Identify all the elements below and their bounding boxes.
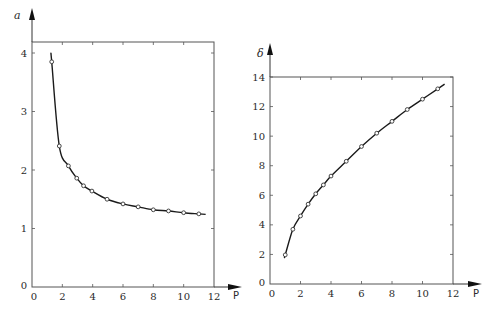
x-tick-label: 4 [328, 288, 334, 299]
data-point [360, 145, 364, 149]
data-point [344, 159, 348, 163]
data-point [321, 183, 325, 187]
series-curve [284, 84, 444, 257]
data-point [136, 205, 140, 209]
y-tick-label: 8 [259, 160, 265, 171]
y-axis-label: a [14, 9, 21, 22]
data-point [283, 253, 287, 257]
figure: aP02468101201234δP02468101202468101214 [0, 0, 495, 312]
x-tick-label: 8 [389, 288, 395, 299]
y-tick-label: 2 [259, 249, 265, 260]
y-tick-label: 14 [252, 72, 265, 83]
x-tick-label: 2 [297, 288, 303, 299]
data-point [50, 60, 54, 64]
data-point [167, 209, 171, 213]
plot-frame [270, 77, 453, 284]
x-axis-label: P [233, 290, 239, 301]
data-point [67, 164, 71, 168]
x-tick-label: 0 [269, 288, 275, 299]
data-point [105, 197, 109, 201]
x-axis-arrow-icon [468, 281, 482, 287]
x-tick-label: 6 [120, 291, 126, 302]
data-point [421, 97, 425, 101]
y-axis-arrow-icon [29, 8, 35, 20]
x-tick-label: 6 [358, 288, 364, 299]
data-point [57, 144, 61, 148]
data-point [299, 214, 303, 218]
data-point [90, 189, 94, 193]
data-point [405, 108, 409, 112]
y-axis-label: δ [257, 47, 264, 60]
x-tick-label: 4 [89, 291, 95, 302]
y-tick-label: 3 [21, 106, 27, 117]
y-tick-label: 1 [21, 223, 27, 234]
data-point [375, 131, 379, 135]
y-tick-label: 0 [21, 280, 27, 291]
data-point [197, 212, 201, 216]
x-tick-label: 0 [31, 291, 37, 302]
plot-frame [32, 42, 214, 287]
y-tick-label: 4 [21, 48, 27, 59]
data-point [151, 208, 155, 212]
y-tick-label: 0 [259, 277, 265, 288]
y-axis-arrow-icon [267, 43, 273, 55]
x-axis-label: P [473, 288, 479, 299]
data-point [329, 174, 333, 178]
data-point [75, 176, 79, 180]
x-tick-label: 12 [447, 288, 460, 299]
x-tick-label: 2 [59, 291, 65, 302]
series-curve [51, 53, 206, 214]
chart-right: δP02468101202468101214 [252, 43, 482, 299]
data-point [314, 192, 318, 196]
y-tick-label: 12 [252, 101, 265, 112]
x-tick-label: 8 [150, 291, 156, 302]
data-point [291, 227, 295, 231]
y-tick-label: 2 [21, 165, 27, 176]
x-tick-label: 10 [416, 288, 429, 299]
data-point [436, 87, 440, 91]
chart-left: aP02468101201234 [14, 8, 242, 302]
data-point [306, 202, 310, 206]
data-point [82, 184, 86, 188]
y-tick-label: 10 [252, 131, 265, 142]
data-point [121, 202, 125, 206]
y-tick-label: 6 [259, 190, 265, 201]
y-tick-label: 4 [259, 219, 265, 230]
x-tick-label: 12 [208, 291, 221, 302]
data-point [182, 211, 186, 215]
data-point [390, 119, 394, 123]
x-tick-label: 10 [177, 291, 190, 302]
